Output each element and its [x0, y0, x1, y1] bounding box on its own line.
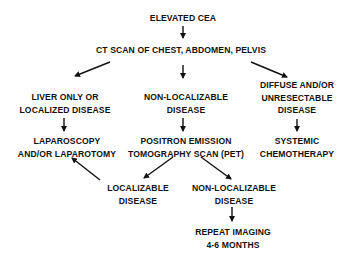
node-laparoscopy: LAPAROSCOPY AND/OR LAPAROTOMY	[18, 135, 116, 160]
node-ct-scan: CT SCAN OF CHEST, ABDOMEN, PELVIS	[96, 44, 266, 57]
node-localizable: LOCALIZABLE DISEASE	[107, 182, 169, 207]
arrow-ct-to-diffuse	[251, 62, 287, 77]
node-non-localizable-1: NON-LOCALIZABLE DISEASE	[144, 91, 228, 116]
flowchart-canvas: ELEVATED CEA CT SCAN OF CHEST, ABDOMEN, …	[0, 0, 345, 256]
node-elevated-cea: ELEVATED CEA	[150, 12, 216, 25]
node-repeat-imaging: REPEAT IMAGING 4-6 MONTHS	[195, 226, 271, 251]
node-non-localizable-2: NON-LOCALIZABLE DISEASE	[192, 182, 276, 207]
arrow-ct-to-liver	[75, 62, 110, 76]
arrows-layer	[0, 0, 345, 256]
arrow-pet-to-nonlocal2	[201, 157, 231, 179]
node-pet-scan: POSITRON EMISSION TOMOGRAPHY SCAN (PET)	[128, 135, 244, 160]
node-chemotherapy: SYSTEMIC CHEMOTHERAPY	[260, 135, 334, 160]
node-diffuse: DIFFUSE AND/OR UNRESECTABLE DISEASE	[260, 79, 334, 117]
node-liver-only: LIVER ONLY OR LOCALIZED DISEASE	[20, 91, 111, 116]
arrow-pet-to-localizable	[144, 157, 173, 178]
arrow-localizable-to-laparoscopy	[72, 158, 100, 180]
